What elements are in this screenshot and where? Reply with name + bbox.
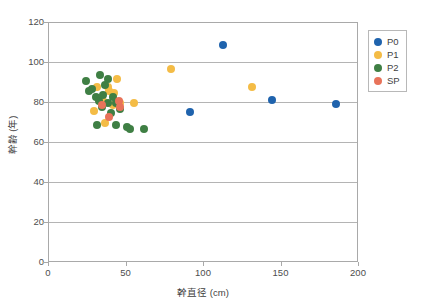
gridline [49, 142, 357, 143]
legend-item-p2: P2 [374, 61, 400, 74]
legend-swatch-icon [374, 38, 382, 46]
legend-item-sp: SP [374, 74, 400, 87]
data-point-p2 [112, 121, 120, 129]
y-axis-title: 幹齢 (年) [5, 105, 19, 165]
legend-item-p1: P1 [374, 48, 400, 61]
legend-swatch-icon [374, 77, 382, 85]
data-point-p1 [248, 83, 256, 91]
data-point-p2 [93, 121, 101, 129]
chart-legend: P0P1P2SP [368, 30, 407, 92]
y-tick-label: 120 [0, 17, 44, 27]
legend-swatch-icon [374, 51, 382, 59]
x-tick-mark [126, 262, 127, 266]
data-point-sp [105, 113, 113, 121]
data-point-p1 [113, 75, 121, 83]
x-tick-label: 50 [106, 268, 146, 278]
x-tick-label: 200 [338, 268, 378, 278]
data-point-p2 [82, 77, 90, 85]
data-point-p2 [140, 125, 148, 133]
x-tick-mark [281, 262, 282, 266]
legend-label: P0 [387, 37, 399, 47]
y-tick-label: 0 [0, 257, 44, 267]
y-tick-label: 20 [0, 217, 44, 227]
legend-swatch-icon [374, 64, 382, 72]
gridline [49, 182, 357, 183]
data-point-p1 [167, 65, 175, 73]
data-point-p2 [96, 71, 104, 79]
data-point-sp [98, 101, 106, 109]
legend-label: P2 [387, 63, 399, 73]
x-tick-label: 0 [28, 268, 68, 278]
y-tick-label: 100 [0, 57, 44, 67]
data-point-p2 [104, 75, 112, 83]
scatter-chart: 020406080100120 050100150200 幹直径 (cm) 幹齢… [0, 0, 437, 305]
gridline [49, 222, 357, 223]
data-point-p0 [186, 108, 194, 116]
x-axis-title: 幹直径 (cm) [48, 285, 358, 299]
x-tick-label: 150 [261, 268, 301, 278]
legend-label: P1 [387, 50, 399, 60]
plot-area [48, 22, 358, 262]
gridline [49, 62, 357, 63]
legend-item-p0: P0 [374, 35, 400, 48]
data-point-p1 [130, 99, 138, 107]
x-tick-mark [358, 262, 359, 266]
x-tick-label: 100 [183, 268, 223, 278]
x-tick-mark [48, 262, 49, 266]
data-point-p0 [219, 41, 227, 49]
data-point-p0 [332, 100, 340, 108]
data-point-p2 [126, 125, 134, 133]
x-tick-mark [203, 262, 204, 266]
data-point-p1 [90, 107, 98, 115]
legend-label: SP [387, 76, 400, 86]
y-tick-label: 40 [0, 177, 44, 187]
